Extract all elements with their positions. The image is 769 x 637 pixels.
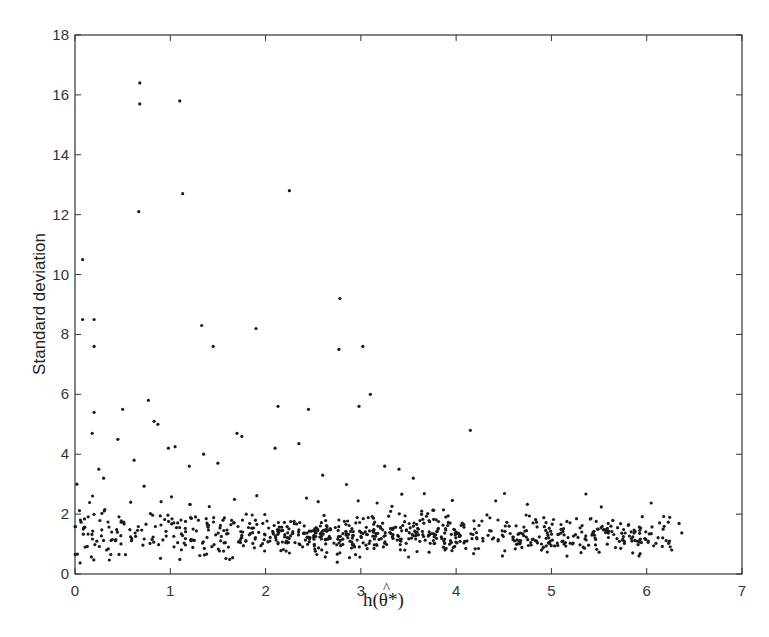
data-point [74, 525, 77, 528]
data-point [141, 544, 144, 547]
data-point [337, 529, 340, 532]
data-point [452, 546, 455, 549]
data-point [559, 523, 562, 526]
data-point [110, 531, 113, 534]
data-point [520, 546, 523, 549]
data-point [644, 538, 647, 541]
data-point [317, 500, 320, 503]
data-point [286, 525, 289, 528]
data-point [170, 517, 173, 520]
data-point [384, 531, 387, 534]
data-point [579, 526, 582, 529]
data-point [93, 411, 96, 414]
data-point [546, 534, 549, 537]
data-point [399, 526, 402, 529]
data-point [382, 535, 385, 538]
data-point [348, 524, 351, 527]
data-point [508, 525, 511, 528]
data-point [263, 538, 266, 541]
data-point [571, 542, 574, 545]
data-point [410, 537, 413, 540]
data-point [624, 531, 627, 534]
data-point [552, 518, 555, 521]
data-point [606, 527, 609, 530]
data-point [610, 530, 613, 533]
data-point [421, 518, 424, 521]
data-point [399, 543, 402, 546]
data-point [236, 525, 239, 528]
data-point [420, 513, 423, 516]
data-point [308, 530, 311, 533]
data-point [297, 542, 300, 545]
data-point [217, 548, 220, 551]
data-point [219, 539, 222, 542]
data-point [430, 532, 433, 535]
data-point [286, 536, 289, 539]
data-point [117, 515, 120, 518]
data-point [662, 515, 665, 518]
axes-frame [75, 35, 742, 574]
data-point [480, 519, 483, 522]
data-point [446, 524, 449, 527]
data-point [407, 537, 410, 540]
data-point [337, 518, 340, 521]
data-point [397, 468, 400, 471]
x-tick-label: 1 [166, 582, 174, 599]
y-tick-label: 8 [61, 325, 69, 342]
data-point [357, 405, 360, 408]
data-point [265, 520, 268, 523]
data-point [387, 515, 390, 518]
data-point [368, 540, 371, 543]
data-point [452, 528, 455, 531]
data-point [582, 546, 585, 549]
data-point [620, 532, 623, 535]
data-point [405, 542, 408, 545]
data-point [254, 536, 257, 539]
data-point [680, 531, 683, 534]
data-point [543, 525, 546, 528]
data-point [556, 544, 559, 547]
data-point [359, 535, 362, 538]
data-point [325, 551, 328, 554]
data-point [307, 408, 310, 411]
data-point [600, 505, 603, 508]
data-point [222, 529, 225, 532]
data-point [344, 523, 347, 526]
data-point [564, 541, 567, 544]
data-point [357, 499, 360, 502]
data-point [253, 546, 256, 549]
data-point [503, 492, 506, 495]
data-point [606, 543, 609, 546]
data-point [79, 561, 82, 564]
data-point [598, 551, 601, 554]
data-point [95, 540, 98, 543]
data-point [383, 542, 386, 545]
data-point [580, 530, 583, 533]
data-point [497, 538, 500, 541]
data-point [247, 526, 250, 529]
data-point [298, 521, 301, 524]
data-point [627, 523, 630, 526]
data-point [273, 524, 276, 527]
x-tick-label: 6 [643, 582, 651, 599]
data-point [354, 521, 357, 524]
data-point [488, 529, 491, 532]
data-point [156, 423, 159, 426]
data-point [175, 526, 178, 529]
data-point [322, 514, 325, 517]
data-point [90, 533, 93, 536]
data-point [412, 477, 415, 480]
data-point [278, 526, 281, 529]
data-point [178, 99, 181, 102]
data-point [134, 531, 137, 534]
data-point [648, 532, 651, 535]
data-point [427, 519, 430, 522]
x-tick-label: 4 [452, 582, 460, 599]
data-point [413, 530, 416, 533]
data-point [609, 525, 612, 528]
data-point [638, 526, 641, 529]
data-point [514, 547, 517, 550]
data-point [87, 515, 90, 518]
data-point [362, 517, 365, 520]
data-point [668, 516, 671, 519]
